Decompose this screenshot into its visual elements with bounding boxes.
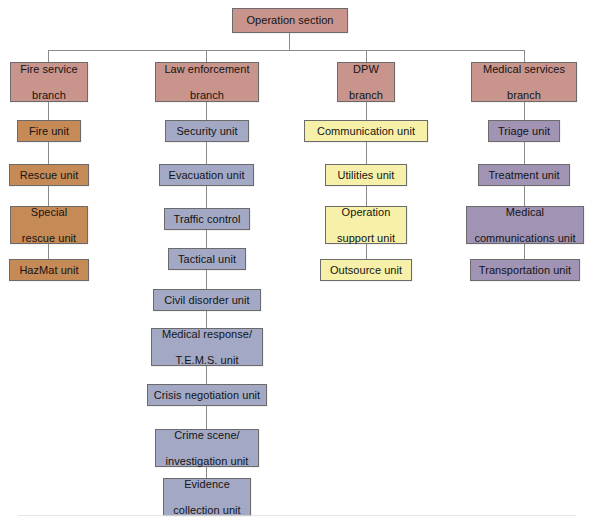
node-operation-support-unit[interactable]: Operationsupport unit: [325, 206, 407, 244]
connector-med-1: [524, 102, 525, 120]
connector-drop-fire: [48, 50, 49, 62]
connector-law-7: [206, 366, 207, 384]
node-triage-unit-label: Triage unit: [492, 125, 556, 138]
node-special-rescue-unit-label: Specialrescue unit: [14, 206, 84, 245]
node-medical-response-tems-unit-label: Medical response/T.E.M.S. unit: [155, 328, 259, 367]
node-security-unit[interactable]: Security unit: [165, 120, 249, 142]
connector-bus: [48, 50, 524, 51]
connector-law-5: [206, 270, 207, 289]
node-civil-disorder-unit[interactable]: Civil disorder unit: [153, 289, 261, 311]
node-operation-section-label: Operation section: [236, 14, 344, 27]
node-communication-unit[interactable]: Communication unit: [304, 120, 428, 142]
node-transportation-unit-label: Transportation unit: [474, 264, 576, 277]
node-dpw-branch-label: DPWbranch: [341, 63, 391, 102]
node-treatment-unit-label: Treatment unit: [482, 169, 566, 182]
node-traffic-control[interactable]: Traffic control: [164, 208, 250, 230]
node-law-enforcement-branch-label: Law enforcementbranch: [159, 63, 255, 102]
node-civil-disorder-unit-label: Civil disorder unit: [157, 294, 257, 307]
connector-law-2: [206, 142, 207, 164]
node-hazmat-unit-label: HazMat unit: [13, 264, 85, 277]
node-evidence-collection-unit[interactable]: Evidencecollection unit: [163, 478, 251, 516]
connector-law-6: [206, 311, 207, 328]
node-medical-services-branch[interactable]: Medical servicesbranch: [471, 62, 577, 102]
node-operation-support-unit-label: Operationsupport unit: [329, 206, 403, 245]
node-hazmat-unit[interactable]: HazMat unit: [9, 259, 89, 281]
node-fire-unit[interactable]: Fire unit: [17, 120, 81, 142]
connector-law-4: [206, 230, 207, 248]
node-fire-service-branch[interactable]: Fire servicebranch: [10, 62, 88, 102]
node-evacuation-unit[interactable]: Evacuation unit: [159, 164, 254, 186]
connector-dpw-3: [366, 186, 367, 206]
connector-fire-1: [48, 102, 49, 120]
connector-law-8: [206, 406, 207, 429]
node-triage-unit[interactable]: Triage unit: [488, 120, 560, 142]
node-dpw-branch[interactable]: DPWbranch: [337, 62, 395, 102]
connector-dpw-4: [366, 244, 367, 259]
node-transportation-unit[interactable]: Transportation unit: [470, 259, 580, 281]
connector-med-4: [524, 244, 525, 259]
node-special-rescue-unit[interactable]: Specialrescue unit: [10, 206, 88, 244]
connector-fire-4: [48, 244, 49, 259]
node-medical-communications-unit[interactable]: Medicalcommunications unit: [466, 206, 584, 244]
node-operation-section[interactable]: Operation section: [232, 8, 348, 33]
node-outsource-unit[interactable]: Outsource unit: [320, 259, 412, 281]
connector-fire-2: [48, 142, 49, 164]
node-outsource-unit-label: Outsource unit: [324, 264, 408, 277]
connector-med-3: [524, 186, 525, 206]
connector-dpw-1: [366, 102, 367, 120]
node-communication-unit-label: Communication unit: [308, 125, 424, 138]
node-evacuation-unit-label: Evacuation unit: [163, 169, 250, 182]
node-fire-unit-label: Fire unit: [21, 125, 77, 138]
node-rescue-unit-label: Rescue unit: [13, 169, 85, 182]
node-crime-scene-investigation-unit-label: Crime scene/investigation unit: [159, 429, 255, 468]
connector-drop-law: [206, 50, 207, 62]
node-medical-response-tems-unit[interactable]: Medical response/T.E.M.S. unit: [151, 328, 263, 366]
connector-fire-3: [48, 186, 49, 206]
node-tactical-unit-label: Tactical unit: [172, 253, 242, 266]
node-tactical-unit[interactable]: Tactical unit: [168, 248, 246, 270]
connector-drop-medical: [524, 50, 525, 62]
org-chart-canvas: Operation section Fire servicebranch Fir…: [0, 0, 593, 523]
connector-dpw-2: [366, 142, 367, 164]
node-evidence-collection-unit-label: Evidencecollection unit: [167, 478, 247, 517]
node-utilities-unit-label: Utilities unit: [329, 169, 403, 182]
node-law-enforcement-branch[interactable]: Law enforcementbranch: [155, 62, 259, 102]
node-medical-services-branch-label: Medical servicesbranch: [475, 63, 573, 102]
node-crisis-negotiation-unit[interactable]: Crisis negotiation unit: [147, 384, 267, 406]
connector-drop-dpw: [366, 50, 367, 62]
connector-root-stem: [289, 33, 290, 50]
connector-law-1: [206, 102, 207, 120]
page-scan-artifact: [18, 515, 576, 516]
node-security-unit-label: Security unit: [169, 125, 245, 138]
node-crime-scene-investigation-unit[interactable]: Crime scene/investigation unit: [155, 429, 259, 467]
node-treatment-unit[interactable]: Treatment unit: [478, 164, 570, 186]
node-medical-communications-unit-label: Medicalcommunications unit: [470, 206, 580, 245]
connector-law-3: [206, 186, 207, 208]
node-fire-service-branch-label: Fire servicebranch: [14, 63, 84, 102]
node-rescue-unit[interactable]: Rescue unit: [9, 164, 89, 186]
node-crisis-negotiation-unit-label: Crisis negotiation unit: [151, 389, 263, 402]
node-utilities-unit[interactable]: Utilities unit: [325, 164, 407, 186]
connector-med-2: [524, 142, 525, 164]
connector-law-9: [206, 467, 207, 478]
node-traffic-control-label: Traffic control: [168, 213, 246, 226]
